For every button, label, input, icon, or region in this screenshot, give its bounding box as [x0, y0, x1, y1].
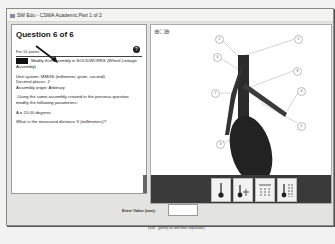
- app-window: SW Edu - CSWA Academic Part 1 of 2 Quest…: [6, 8, 334, 226]
- callout-6: 6: [213, 53, 222, 62]
- view-button-2[interactable]: [233, 178, 253, 202]
- app-icon: [10, 14, 15, 18]
- callout-3: 3: [216, 140, 225, 149]
- decimal-hint: (use . [point] as decimal separator): [148, 226, 205, 230]
- question-paragraph: A = 20.00 degrees: [16, 110, 142, 116]
- view-1-icon: [212, 179, 230, 201]
- view-4-icon: [278, 179, 296, 201]
- scrollbar[interactable]: [143, 175, 147, 193]
- question-paragraph: Modify this assembly in SOLIDWORKS (Whee…: [16, 58, 142, 70]
- answer-input[interactable]: [168, 204, 198, 216]
- question-paragraph: -Using the same assembly created in the …: [16, 94, 142, 105]
- callout-8: 8: [293, 67, 302, 76]
- callout-5: 5: [297, 122, 306, 131]
- help-icon[interactable]: ?: [133, 46, 140, 53]
- view-button-4[interactable]: [277, 178, 297, 202]
- view-button-1[interactable]: [211, 178, 231, 202]
- callout-1: 1: [294, 35, 303, 44]
- callout-2: 2: [215, 35, 224, 44]
- assembly-drawing: [151, 25, 331, 175]
- view-3-icon: [256, 179, 274, 201]
- callout-4: 4: [297, 87, 306, 96]
- question-title: Question 6 of 6: [16, 30, 74, 39]
- model-viewer: ⊕⛶⊕ 2 1 6 8 7 4 5 3: [150, 24, 332, 204]
- view-toolbar: [151, 175, 331, 203]
- callout-7: 7: [211, 89, 220, 98]
- view-2-icon: [234, 179, 252, 201]
- question-paragraph: Unit system: MMGS (millimeter, gram, sec…: [16, 74, 142, 91]
- question-panel: Question 6 of 6 For 10 points ? Modify t…: [11, 24, 147, 194]
- window-title: SW Edu - CSWA Academic Part 1 of 2: [17, 12, 102, 18]
- question-paragraph: What is the measured distance X (millime…: [16, 119, 142, 125]
- view-button-3[interactable]: [255, 178, 275, 202]
- answer-label: Enter Value (mm):: [122, 208, 156, 213]
- question-body: Modify this assembly in SOLIDWORKS (Whee…: [16, 58, 142, 191]
- title-bar: SW Edu - CSWA Academic Part 1 of 2: [7, 9, 333, 22]
